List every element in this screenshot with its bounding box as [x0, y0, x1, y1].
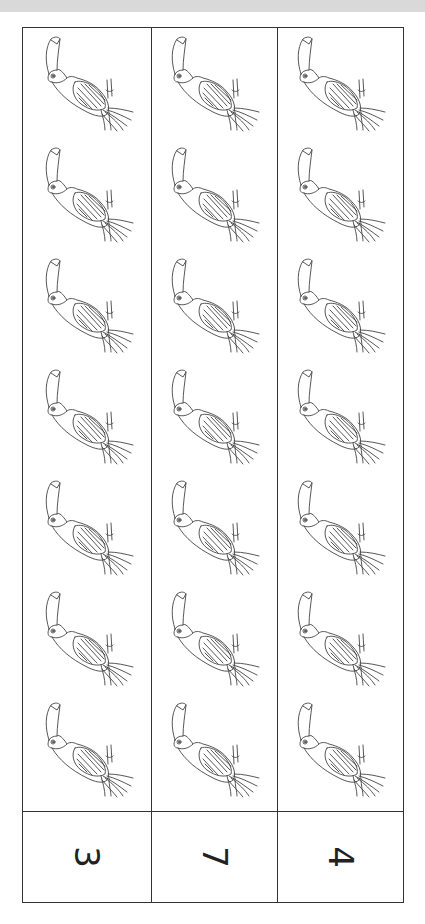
toucan-picture: [287, 698, 391, 798]
count-cell-1[interactable]: 3: [23, 812, 151, 902]
toucan-picture: [35, 587, 139, 687]
count-label: 3: [70, 846, 104, 868]
count-label: 4: [323, 846, 357, 868]
toucan-picture: [287, 254, 391, 354]
toucan-picture: [35, 254, 139, 354]
toucan-picture: [161, 143, 265, 243]
top-bar: [0, 0, 425, 12]
column-divider: [277, 28, 278, 902]
toucan-picture: [35, 476, 139, 576]
toucan-picture: [35, 143, 139, 243]
toucan-picture: [161, 254, 265, 354]
toucan-picture: [161, 698, 265, 798]
count-cell-3[interactable]: 4: [278, 812, 403, 902]
toucan-picture: [287, 143, 391, 243]
toucan-picture: [287, 587, 391, 687]
count-cell-2[interactable]: 7: [152, 812, 277, 902]
toucan-picture: [287, 476, 391, 576]
toucan-picture: [287, 32, 391, 132]
toucan-picture: [161, 476, 265, 576]
worksheet-table: 3 7 4: [22, 27, 404, 903]
toucan-picture: [161, 587, 265, 687]
toucan-picture: [35, 365, 139, 465]
toucan-picture: [161, 365, 265, 465]
toucan-picture: [35, 698, 139, 798]
column-divider: [151, 28, 152, 902]
toucan-picture: [35, 32, 139, 132]
toucan-picture: [287, 365, 391, 465]
count-label: 7: [197, 846, 231, 868]
toucan-picture: [161, 32, 265, 132]
